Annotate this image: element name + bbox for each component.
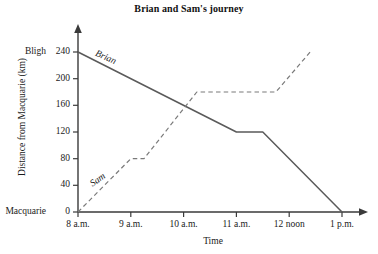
y-tick-label-160: 160 (48, 99, 70, 109)
y-tick-label-0: 0 (48, 206, 70, 216)
series-line-brian (78, 52, 342, 212)
x-tick-label-10am: 10 a.m. (158, 219, 210, 229)
x-tick-label-12noon: 12 noon (263, 219, 315, 229)
x-tick-label-1pm: 1 p.m. (316, 219, 368, 229)
place-label-macquarie: Macquarie (0, 206, 46, 216)
y-tick-label-240: 240 (48, 46, 70, 56)
chart-figure: Brian and Sam's journey (0, 0, 378, 254)
y-axis-arrow-icon (74, 24, 82, 33)
series-line-sam (78, 52, 310, 212)
x-tick-label-9am: 9 a.m. (105, 219, 157, 229)
y-tick-marks (73, 52, 78, 212)
x-tick-label-8am: 8 a.m. (52, 219, 104, 229)
y-tick-label-40: 40 (48, 179, 70, 189)
x-tick-label-11am: 11 a.m. (210, 219, 262, 229)
y-axis-label: Distance from Macquarie (km) (17, 37, 27, 197)
x-tick-marks (78, 212, 342, 217)
x-axis-arrow-icon (359, 208, 368, 216)
y-tick-label-80: 80 (48, 153, 70, 163)
y-tick-label-200: 200 (48, 73, 70, 83)
x-axis-label: Time (78, 236, 348, 246)
y-tick-label-120: 120 (48, 126, 70, 136)
